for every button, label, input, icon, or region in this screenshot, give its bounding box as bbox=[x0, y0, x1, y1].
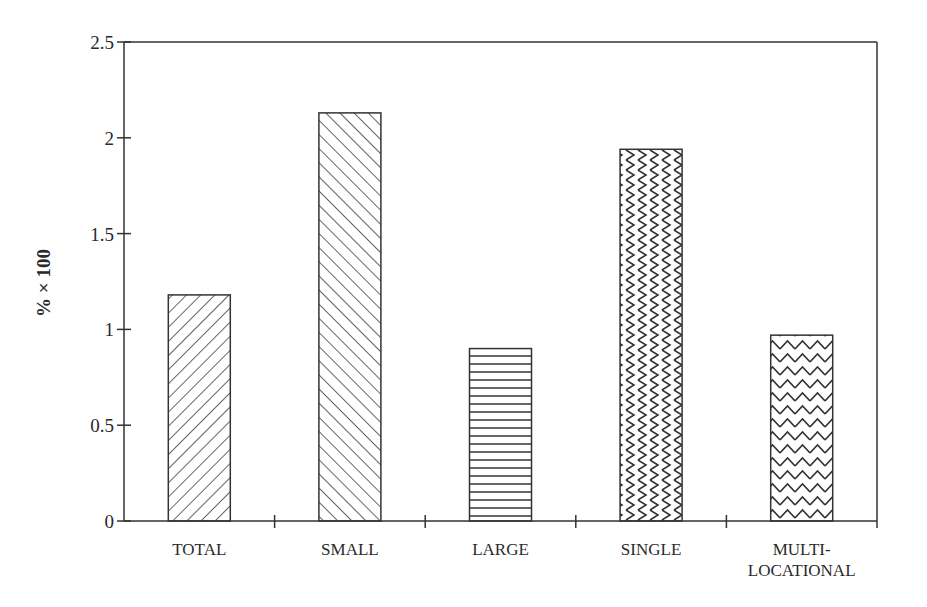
bar-total bbox=[168, 295, 230, 521]
bars bbox=[168, 113, 832, 521]
y-axis-title: % × 100 bbox=[33, 249, 54, 317]
x-category-label: MULTI- bbox=[773, 540, 831, 559]
x-category-label: SMALL bbox=[321, 540, 379, 559]
y-tick-label: 1.5 bbox=[90, 224, 114, 245]
x-axis: TOTALSMALLLARGESINGLEMULTI-LOCATIONAL bbox=[124, 515, 877, 580]
bar-chart: 00.511.522.5 TOTALSMALLLARGESINGLEMULTI-… bbox=[0, 0, 927, 607]
bar-small bbox=[319, 113, 381, 521]
y-tick-label: 2 bbox=[105, 128, 115, 149]
x-category-label: TOTAL bbox=[172, 540, 226, 559]
x-category-label: LOCATIONAL bbox=[748, 561, 856, 580]
y-tick-label: 0 bbox=[105, 511, 115, 532]
x-category-label: LARGE bbox=[472, 540, 529, 559]
y-tick-label: 2.5 bbox=[90, 32, 114, 53]
y-axis: 00.511.522.5 bbox=[90, 32, 131, 532]
y-tick-label: 0.5 bbox=[90, 415, 114, 436]
bar-large bbox=[470, 349, 532, 521]
bar-multi-locational bbox=[771, 335, 833, 521]
y-tick-label: 1 bbox=[105, 319, 115, 340]
bar-single bbox=[620, 149, 682, 521]
x-category-label: SINGLE bbox=[621, 540, 681, 559]
